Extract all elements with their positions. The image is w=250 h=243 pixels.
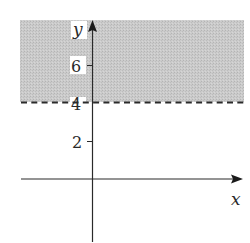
tick-label-6: 6 [71, 57, 81, 76]
inequality-graph: y 6 4 2 x [0, 0, 250, 243]
tick-label-4: 4 [71, 95, 81, 114]
x-axis-label: x [231, 189, 241, 209]
tick-label-2: 2 [72, 133, 82, 152]
y-axis-label: y [72, 19, 83, 39]
shaded-region [20, 20, 244, 102]
